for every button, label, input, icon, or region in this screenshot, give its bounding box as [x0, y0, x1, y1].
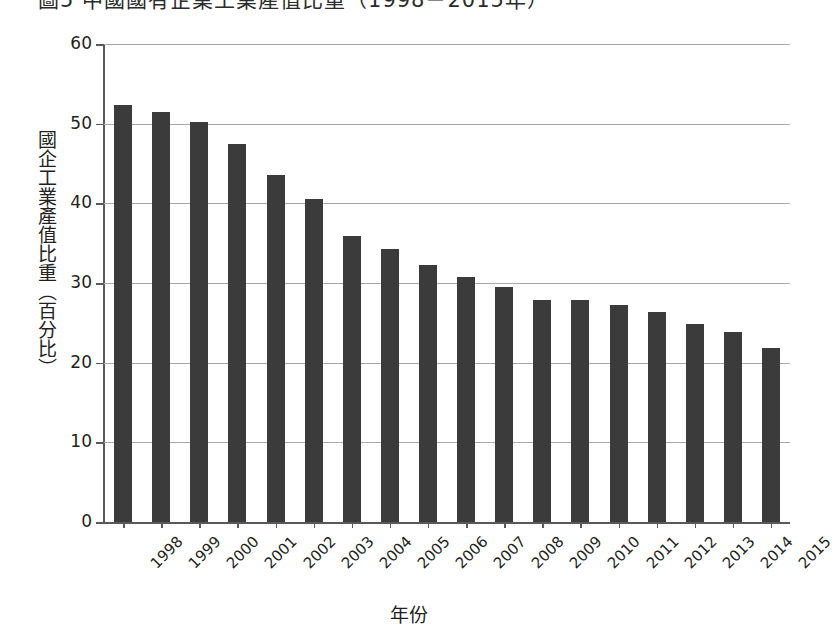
- x-tick-label-2012: 2012: [682, 534, 720, 572]
- y-tick-20: [96, 363, 104, 365]
- y-tick-label-0: 0: [52, 513, 92, 530]
- x-tick-label-2015: 2015: [796, 534, 834, 572]
- y-tick-60: [96, 44, 104, 46]
- x-tick-label-2006: 2006: [453, 534, 491, 572]
- x-tick-label-2000: 2000: [224, 534, 262, 572]
- bar-2000: [190, 122, 208, 522]
- y-tick-label-30: 30: [52, 274, 92, 291]
- y-tick-40: [96, 203, 104, 205]
- y-tick-30: [96, 283, 104, 285]
- x-tick-label-2013: 2013: [720, 534, 758, 572]
- bar-2009: [533, 300, 551, 522]
- x-tick-2010: [580, 522, 582, 528]
- y-tick-label-60: 60: [52, 35, 92, 52]
- bar-2004: [343, 236, 361, 522]
- y-tick-label-group: 0102030405060: [48, 0, 92, 641]
- x-tick-label-2008: 2008: [529, 534, 567, 572]
- bar-2012: [648, 312, 666, 522]
- x-tick-2001: [237, 522, 239, 528]
- x-tick-label-2010: 2010: [606, 534, 644, 572]
- bar-2008: [495, 287, 513, 522]
- gridline-60: [104, 44, 790, 45]
- y-tick-label-10: 10: [52, 433, 92, 450]
- x-tick-2009: [542, 522, 544, 528]
- y-tick-label-50: 50: [52, 115, 92, 132]
- x-tick-2007: [466, 522, 468, 528]
- x-tick-label-2007: 2007: [491, 534, 529, 572]
- bar-2011: [610, 305, 628, 522]
- x-tick-2003: [314, 522, 316, 528]
- x-tick-2008: [504, 522, 506, 528]
- y-tick-label-40: 40: [52, 194, 92, 211]
- bar-2014: [724, 332, 742, 522]
- y-tick-10: [96, 442, 104, 444]
- x-tick-2004: [352, 522, 354, 528]
- x-tick-1999: [161, 522, 163, 528]
- bar-1998: [114, 105, 132, 522]
- x-tick-2015: [771, 522, 773, 528]
- y-tick-0: [96, 522, 104, 524]
- bar-2001: [228, 144, 246, 522]
- x-tick-2014: [733, 522, 735, 528]
- x-tick-label-1999: 1999: [186, 534, 224, 572]
- x-tick-label-2014: 2014: [758, 534, 796, 572]
- bar-2015: [762, 348, 780, 522]
- plot-area: [104, 44, 790, 522]
- bar-2007: [457, 277, 475, 522]
- x-tick-2013: [695, 522, 697, 528]
- x-tick-label-1998: 1998: [148, 534, 186, 572]
- bar-2002: [267, 175, 285, 522]
- y-tick-50: [96, 124, 104, 126]
- bar-2003: [305, 199, 323, 522]
- x-tick-label-2005: 2005: [415, 534, 453, 572]
- x-tick-2012: [657, 522, 659, 528]
- x-tick-label-2004: 2004: [377, 534, 415, 572]
- x-tick-1998: [123, 522, 125, 528]
- x-tick-2011: [619, 522, 621, 528]
- y-tick-label-20: 20: [52, 354, 92, 371]
- bar-2006: [419, 265, 437, 522]
- bar-2005: [381, 249, 399, 522]
- bar-1999: [152, 112, 170, 522]
- axis-baseline: [104, 522, 790, 524]
- x-tick-label-2011: 2011: [644, 534, 682, 572]
- bar-2010: [571, 300, 589, 522]
- bar-2013: [686, 324, 704, 522]
- x-tick-2000: [199, 522, 201, 528]
- x-axis-title: 年份: [0, 600, 818, 627]
- x-tick-label-2009: 2009: [567, 534, 605, 572]
- x-tick-label-2001: 2001: [263, 534, 301, 572]
- x-tick-label-2002: 2002: [301, 534, 339, 572]
- x-tick-2006: [428, 522, 430, 528]
- x-tick-2002: [276, 522, 278, 528]
- x-tick-label-2003: 2003: [339, 534, 377, 572]
- x-tick-2005: [390, 522, 392, 528]
